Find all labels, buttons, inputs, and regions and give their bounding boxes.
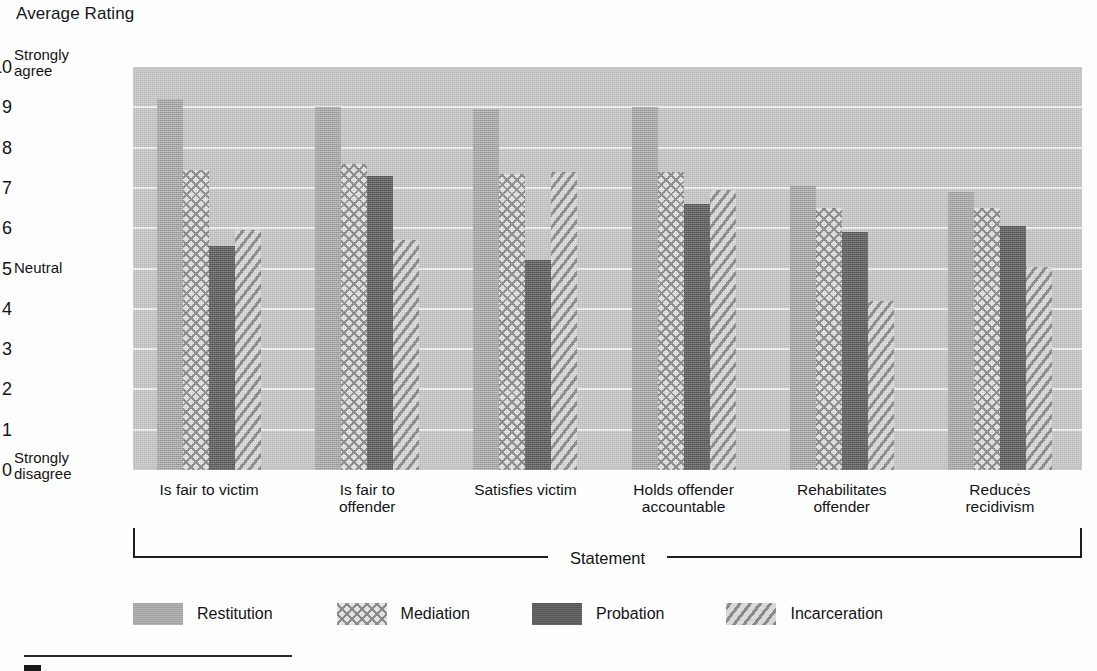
bar-incarceration-4: [710, 190, 736, 470]
y-anchor-line: Neutral: [14, 260, 96, 276]
bar-mediation-4: [658, 172, 684, 470]
plot-area: [133, 67, 1082, 470]
x-category-label: Reducesrecidivism: [905, 481, 1095, 515]
y-anchor-line: disagree: [14, 466, 96, 482]
x-category-label-line: offender: [272, 498, 462, 515]
bar-incarceration-2: [393, 240, 419, 470]
bar-incarceration-1: [235, 230, 261, 470]
paper-speck: [1017, 483, 1020, 486]
y-tick-label: 1: [0, 421, 12, 439]
gridline: [133, 187, 1082, 189]
y-tick-label: 10: [0, 58, 12, 76]
bar-restitution-1: [157, 99, 183, 470]
y-anchor-strongly-disagree: Stronglydisagree: [14, 450, 96, 482]
bar-probation-2: [367, 176, 393, 470]
legend-label-probation: Probation: [596, 605, 665, 623]
y-tick-label: 6: [0, 219, 12, 237]
bar-mediation-5: [816, 208, 842, 470]
gridline: [133, 227, 1082, 229]
y-anchor-neutral: Neutral: [14, 260, 96, 276]
legend-item-incarceration: Incarceration: [726, 603, 883, 625]
bar-incarceration-3: [551, 172, 577, 470]
gridline: [133, 429, 1082, 431]
y-anchor-line: agree: [14, 63, 96, 79]
bar-probation-3: [525, 260, 551, 470]
x-axis-bracket: Statement: [133, 528, 1082, 558]
y-anchor-strongly-agree: Stronglyagree: [14, 47, 96, 79]
bar-restitution-4: [632, 107, 658, 470]
bar-probation-1: [209, 246, 235, 470]
gridline: [133, 106, 1082, 108]
legend-item-probation: Probation: [532, 603, 665, 625]
legend-swatch-restitution: [133, 603, 183, 625]
footer-rule: [24, 655, 292, 657]
y-tick-label: 9: [0, 98, 12, 116]
bar-restitution-5: [790, 186, 816, 470]
gridline: [133, 348, 1082, 350]
bar-restitution-6: [948, 192, 974, 470]
gridline: [133, 147, 1082, 149]
bar-mediation-2: [341, 164, 367, 470]
x-category-label-line: Reduces: [905, 481, 1095, 498]
y-tick-label: 2: [0, 380, 12, 398]
x-axis-title: Statement: [133, 549, 1082, 568]
y-anchor-line: Strongly: [14, 450, 96, 466]
chart-figure: Average Rating 012345678910 Stronglyagre…: [0, 0, 1097, 671]
legend-swatch-mediation: [337, 603, 387, 625]
bar-mediation-1: [183, 170, 209, 470]
bar-probation-4: [684, 204, 710, 470]
bar-restitution-2: [315, 107, 341, 470]
legend-label-restitution: Restitution: [197, 605, 273, 623]
bar-probation-6: [1000, 226, 1026, 470]
gridline: [133, 388, 1082, 390]
legend: RestitutionMediationProbationIncarcerati…: [133, 601, 933, 627]
legend-label-mediation: Mediation: [401, 605, 470, 623]
y-tick-label: 4: [0, 300, 12, 318]
bar-incarceration-5: [868, 301, 894, 470]
gridline: [133, 308, 1082, 310]
bar-incarceration-6: [1026, 267, 1052, 471]
x-category-label-line: recidivism: [905, 498, 1095, 515]
y-tick-label: 0: [0, 461, 12, 479]
bar-mediation-3: [499, 174, 525, 470]
footer-mark: [24, 665, 41, 671]
bar-probation-5: [842, 232, 868, 470]
bar-restitution-3: [473, 109, 499, 470]
legend-swatch-incarceration: [726, 603, 776, 625]
y-anchor-line: Strongly: [14, 47, 96, 63]
y-tick-label: 8: [0, 139, 12, 157]
legend-label-incarceration: Incarceration: [790, 605, 883, 623]
legend-item-mediation: Mediation: [337, 603, 470, 625]
chart-title: Average Rating: [16, 4, 134, 24]
y-tick-label: 7: [0, 179, 12, 197]
legend-swatch-probation: [532, 603, 582, 625]
y-tick-label: 5: [0, 260, 12, 278]
bar-mediation-6: [974, 208, 1000, 470]
legend-item-restitution: Restitution: [133, 603, 273, 625]
gridline: [133, 268, 1082, 270]
y-tick-label: 3: [0, 340, 12, 358]
